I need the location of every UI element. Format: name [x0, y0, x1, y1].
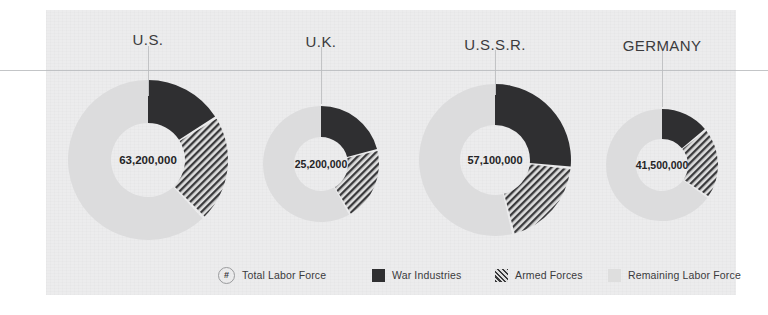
legend-item-armed-forces: Armed Forces	[495, 269, 583, 282]
country-label-germany: GERMANY	[623, 37, 702, 54]
country-label-us: U.S.	[133, 31, 164, 48]
total-labor-force-value-germany: 41,500,000	[636, 159, 689, 171]
leader-line-germany	[662, 51, 663, 107]
leader-line-uk	[321, 47, 322, 104]
legend-swatch-armed-forces	[495, 269, 508, 282]
legend-item-remaining-labor-force: Remaining Labor Force	[608, 269, 741, 282]
slice-armed-forces	[504, 164, 570, 233]
leader-line-ussr	[495, 50, 496, 95]
chart-legend: #Total Labor ForceWar IndustriesArmed Fo…	[46, 258, 736, 292]
country-label-uk: U.K.	[306, 33, 337, 50]
total-labor-force-value-us: 63,200,000	[119, 154, 177, 166]
legend-item-war-industries: War Industries	[372, 269, 461, 282]
leader-line-us	[148, 46, 149, 96]
infographic-scene: U.S.U.K.U.S.S.R.GERMANY 63,200,00025,200…	[0, 0, 768, 315]
total-labor-force-value-uk: 25,200,000	[295, 158, 348, 170]
legend-item-total-labor-force: #Total Labor Force	[218, 267, 326, 284]
slice-war-industries	[321, 106, 377, 157]
legend-label-total-labor-force: Total Labor Force	[242, 269, 326, 281]
legend-swatch-remaining-labor-force	[608, 269, 621, 282]
legend-label-armed-forces: Armed Forces	[515, 269, 583, 281]
legend-swatch-war-industries	[372, 269, 385, 282]
hash-badge-icon: #	[218, 267, 235, 284]
total-labor-force-value-ussr: 57,100,000	[467, 154, 522, 166]
legend-label-remaining-labor-force: Remaining Labor Force	[628, 269, 741, 281]
country-label-ussr: U.S.S.R.	[464, 36, 526, 53]
legend-label-war-industries: War Industries	[392, 269, 461, 281]
